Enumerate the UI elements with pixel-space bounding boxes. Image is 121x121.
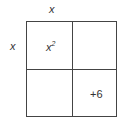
cell-top-left-exponent: 2 <box>52 40 56 47</box>
left-label: x <box>10 40 16 52</box>
top-label: x <box>49 3 55 15</box>
grid-horizontal-divider <box>27 69 116 70</box>
grid: x2 +6 <box>26 21 117 117</box>
cell-bottom-right: +6 <box>90 88 103 100</box>
cell-top-left: x2 <box>46 40 55 53</box>
